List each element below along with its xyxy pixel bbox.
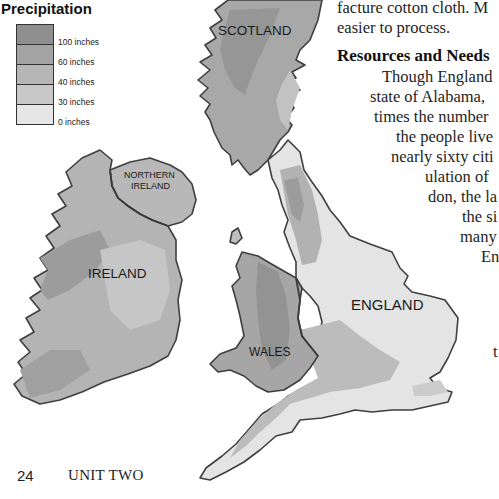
swatch-60 [17,45,53,65]
legend-label-30: 30 inches [58,97,94,107]
page-number: 24 [17,467,34,484]
label-ireland: IRELAND [88,266,147,281]
body-text-line: easier to process. [337,18,450,38]
paragraph-line: Though England [382,67,492,87]
textbook-page: Precipitation 100 inches 60 inches 40 in… [0,0,499,499]
paragraph-fragment: t [493,342,498,362]
section-heading: Resources and Needs [337,46,490,66]
precipitation-legend: Precipitation 100 inches 60 inches 40 in… [13,0,92,18]
legend-label-60: 60 inches [58,57,94,67]
paragraph-line: state of Alabama, [370,87,485,107]
legend-label-0: 0 inches [58,117,90,127]
body-text-line: facture cotton cloth. M [337,0,488,18]
label-wales: WALES [249,345,291,359]
swatch-30 [17,85,53,105]
paragraph-line: En [481,247,499,267]
label-england: ENGLAND [351,296,424,313]
swatch-40 [17,65,53,85]
legend-swatches [16,24,54,125]
legend-title: Precipitation [1,0,92,18]
swatch-100 [17,25,53,45]
legend-label-100: 100 inches [58,37,99,47]
paragraph-line: times the number [374,107,489,127]
paragraph-line: don, the la [428,187,497,207]
label-northern-ireland-line2: IRELAND [131,181,170,191]
paragraph-line: many [460,227,497,247]
label-scotland: SCOTLAND [218,23,292,38]
isle-of-man [230,228,242,244]
unit-title: UNIT TWO [68,467,144,484]
paragraph-line: nearly sixty citi [391,147,494,167]
paragraph-line: ulation of [425,167,489,187]
label-northern-ireland-line1: NORTHERN [124,170,175,180]
swatch-0 [17,105,53,124]
paragraph-line: the people live [396,127,493,147]
paragraph-line: the si [462,207,497,227]
legend-label-40: 40 inches [58,77,94,87]
